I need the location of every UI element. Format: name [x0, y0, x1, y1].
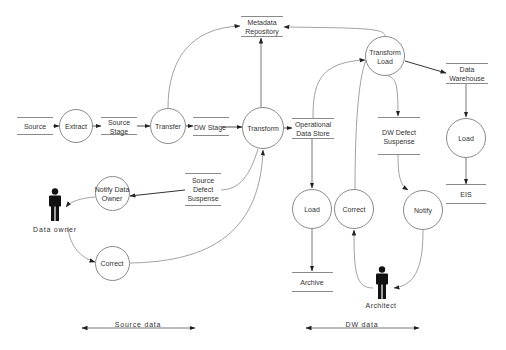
- label-load-dw: Load: [458, 134, 474, 143]
- flow-transform-load-dw-defect: [388, 76, 398, 116]
- label-source-defect-line2: Defect: [193, 185, 213, 194]
- label-transform: Transform: [247, 124, 279, 133]
- flow-notify-owner-actor: [66, 197, 95, 207]
- data-owner-person-icon[interactable]: [48, 188, 62, 222]
- label-source-defect-line1: Source: [192, 176, 214, 185]
- label-correct-source: Correct: [101, 259, 124, 268]
- flow-notify-architect: [394, 230, 423, 288]
- label-metadata-line2: Repository: [245, 27, 278, 36]
- label-source-data: Source data: [115, 320, 162, 329]
- label-dw-line1: Data: [460, 65, 475, 74]
- diagram-canvas: [0, 0, 506, 350]
- label-notify: Notify: [414, 206, 432, 215]
- label-notify-owner-line2: Owner: [102, 194, 123, 203]
- label-notify-owner-line1: Notify Data: [95, 185, 130, 194]
- label-transform-load-line1: Transform: [369, 48, 401, 57]
- label-correct-dw: Correct: [343, 205, 366, 214]
- label-archive: Archive: [300, 278, 323, 287]
- label-architect: Architect: [366, 301, 397, 310]
- flow-transform-load-metadata: [284, 27, 385, 36]
- flow-transform-source-defect: [220, 149, 258, 190]
- flow-architect-correct: [354, 230, 373, 288]
- label-data-owner: Data owner: [33, 225, 77, 234]
- label-source-stage-line1: Source: [108, 118, 130, 127]
- label-dw-data: DW data: [346, 320, 379, 329]
- flow-transfer-metadata: [168, 26, 240, 108]
- label-dw-defect-line1: DW Defect: [382, 128, 416, 137]
- label-extract: Extract: [65, 122, 87, 131]
- label-source: Source: [24, 122, 46, 131]
- label-eis: EIS: [460, 190, 471, 199]
- flow-transform-load-dw: [405, 61, 446, 73]
- label-transform-load-line2: Load: [377, 57, 393, 66]
- label-ods-line1: Operational: [295, 120, 331, 129]
- flow-correct-transform: [129, 150, 263, 263]
- label-source-stage-line2: Stage: [110, 127, 128, 136]
- label-load-ods: Load: [304, 205, 320, 214]
- architect-person-icon[interactable]: [375, 266, 389, 300]
- label-metadata-line1: Metadata: [247, 18, 276, 27]
- label-dw-stage: DW Stage: [194, 123, 226, 132]
- label-transfer: Transfer: [155, 122, 181, 131]
- flow-correct-transform-load: [355, 60, 366, 189]
- flow-dw-defect-notify: [398, 155, 408, 190]
- label-ods-line2: Data Store: [296, 129, 329, 138]
- flow-source-defect-notify-owner: [130, 190, 185, 196]
- label-dw-line2: Warehouse: [449, 74, 485, 83]
- label-source-defect-line3: Suspense: [187, 194, 218, 203]
- label-dw-defect-line2: Suspense: [383, 137, 414, 146]
